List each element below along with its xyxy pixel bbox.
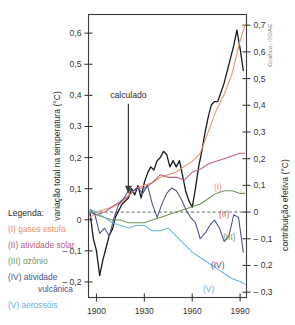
curve-tag-4: (IV) xyxy=(211,260,225,270)
y-axis-title: variação total na temperatura (°C) xyxy=(52,91,62,221)
left-tick-label: 0,1 xyxy=(70,184,82,194)
credit-text: Gráfico: ©DAE xyxy=(266,23,273,66)
left-tick-label: 0,3 xyxy=(70,121,82,131)
legend-item-solar-activity[interactable]: (II) atividade solar xyxy=(8,240,75,250)
x-axis-ticks: 1900193019601990 xyxy=(87,294,250,316)
right-tick-label: 0 xyxy=(254,207,259,217)
right-tick-label: 0,2 xyxy=(254,154,266,164)
annotation-label: calculado xyxy=(110,90,147,100)
curve-tag-1: (I) xyxy=(214,182,222,192)
legend-title: Legenda: xyxy=(8,208,44,218)
right-tick-label: 0,7 xyxy=(254,20,266,30)
y2-axis-title: contribuição efetiva (°C) xyxy=(280,159,290,251)
curve-tag-5: (V) xyxy=(203,284,214,294)
legend-item-volcanic-activity-line2: vulcânica xyxy=(38,284,73,294)
right-tick-label: – 0,1 xyxy=(254,234,273,244)
left-tick-label: 0,4 xyxy=(70,90,82,100)
series-line-0 xyxy=(90,30,243,276)
left-tick-label: 0,6 xyxy=(70,28,82,38)
left-tick-label: 0 xyxy=(77,215,82,225)
climate-attribution-chart: 0,60,50,40,30,20,10– 0,1– 0,2 0,70,60,50… xyxy=(0,0,295,325)
legend-item-greenhouse-gases[interactable]: (I) gases estufa xyxy=(8,224,66,234)
right-tick-label: 0,6 xyxy=(254,47,266,57)
legend: Legenda: (I) gases estufa (II) atividade… xyxy=(8,208,75,310)
x-tick-label: 1960 xyxy=(183,306,202,316)
x-tick-label: 1900 xyxy=(87,306,106,316)
legend-item-volcanic-activity[interactable]: (IV) atividade xyxy=(8,272,58,282)
x-tick-label: 1930 xyxy=(135,306,154,316)
right-tick-label: 0,4 xyxy=(254,100,266,110)
right-tick-label: 0,1 xyxy=(254,180,266,190)
right-tick-label: – 0,2 xyxy=(254,260,273,270)
x-tick-label: 1990 xyxy=(231,306,250,316)
right-tick-label: 0,3 xyxy=(254,127,266,137)
series-layer xyxy=(90,25,245,284)
calculado-annotation: calculado xyxy=(110,90,147,194)
legend-item-ozone[interactable]: (III) ozônio xyxy=(8,256,48,266)
right-tick-label: 0,5 xyxy=(254,74,266,84)
left-tick-label: 0,2 xyxy=(70,153,82,163)
legend-item-aerosols[interactable]: (V) aerossóis xyxy=(8,300,57,310)
curve-tag-3: (III) xyxy=(223,232,236,242)
curve-tag-2: (II) xyxy=(219,209,229,219)
right-tick-label: – 0,3 xyxy=(254,287,273,297)
figure-root: 0,60,50,40,30,20,10– 0,1– 0,2 0,70,60,50… xyxy=(0,0,295,325)
left-tick-label: 0,5 xyxy=(70,59,82,69)
